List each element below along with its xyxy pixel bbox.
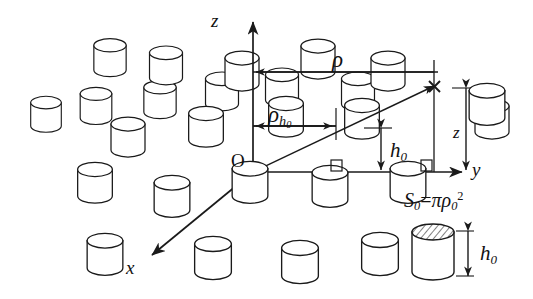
rho0-exponent: 2 (457, 189, 463, 203)
cylinder (362, 232, 399, 275)
cylinder (78, 162, 113, 203)
rho0-symbol: ρ (442, 189, 452, 211)
cylinder-field-right (469, 83, 505, 125)
x-axis-label: x (126, 258, 134, 277)
rho-h0-label: ρh0 (268, 103, 291, 130)
cylinder (312, 165, 348, 207)
figure-canvas: z y x O ρ ρh0 h0 z S0=πρ02 h0 (0, 0, 533, 299)
z-dimension-label: z (453, 124, 460, 141)
rho-h0-base: ρ (268, 102, 279, 127)
cylinder (94, 39, 126, 77)
cylinder (469, 83, 505, 125)
z-axis-label: z (211, 11, 218, 30)
rho-label: ρ (332, 48, 343, 71)
cylinder (80, 87, 112, 124)
cylinder (282, 240, 319, 283)
legend-h0-base: h (480, 241, 491, 265)
cylinder (345, 98, 380, 139)
diagram-svg (0, 0, 533, 299)
h0-label: h0 (390, 140, 407, 163)
y-axis-label: y (472, 160, 480, 179)
cylinder (371, 51, 405, 91)
cylinder (225, 51, 259, 91)
cylinder (154, 175, 190, 217)
cylinder (87, 233, 123, 275)
legend-cylinder-hatched-top (412, 224, 454, 240)
cylinder (150, 46, 183, 85)
legend-h0-label: h0 (480, 243, 497, 266)
s0-formula: S0=πρ02 (404, 190, 464, 213)
rho-h0-sub-zero: 0 (286, 119, 291, 130)
legend-h0-sub: 0 (491, 252, 498, 267)
h0-base: h (390, 138, 401, 162)
s0-symbol: S (404, 189, 414, 211)
cylinder (195, 236, 232, 279)
cylinder (111, 117, 145, 157)
cylinder (144, 81, 176, 119)
h0-sub: 0 (401, 149, 408, 164)
cylinder (189, 106, 224, 147)
pi-symbol: π (431, 189, 441, 211)
s0-equals: = (420, 189, 431, 211)
origin-label: O (231, 151, 245, 170)
cylinder (301, 39, 335, 79)
cylinder (31, 96, 62, 132)
